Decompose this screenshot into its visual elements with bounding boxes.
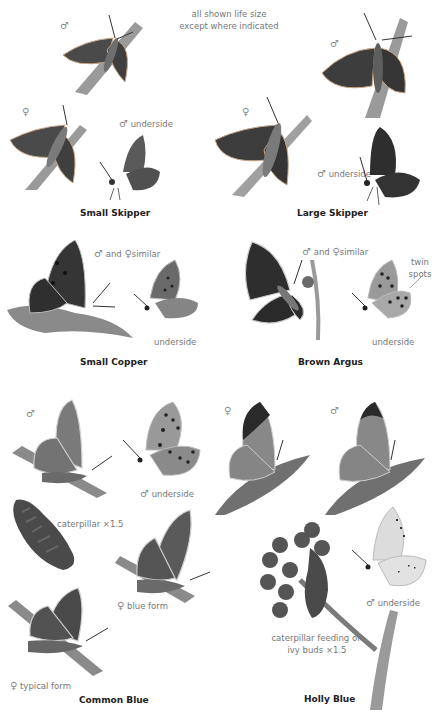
common-blue-caterpillar-label: caterpillar ×1.5 <box>57 518 123 530</box>
caterpillar-line2: ivy buds ×1.5 <box>262 644 372 656</box>
brown-argus-underside-illustration <box>350 258 430 330</box>
holly-blue-female-illustration <box>215 400 315 515</box>
holly-blue-male-underside-label: ♂ underside <box>366 597 420 609</box>
common-blue-typical-form-illustration <box>8 586 113 681</box>
species-title-common-blue: Common Blue <box>79 695 149 705</box>
caterpillar-line1: caterpillar feeding on <box>262 632 372 644</box>
underside-label: underside <box>378 598 420 608</box>
underside-label: underside <box>131 119 173 129</box>
male-symbol: ♂ <box>140 488 149 499</box>
common-blue-blue-form-illustration <box>115 508 215 603</box>
species-title-small-copper: Small Copper <box>80 357 147 367</box>
female-symbol: ♀ <box>10 680 17 691</box>
male-symbol: ♂ <box>317 168 326 179</box>
small-skipper-male-illustration <box>55 10 155 95</box>
common-blue-caterpillar-illustration <box>8 492 78 577</box>
holly-blue-male-illustration <box>325 400 430 515</box>
holly-blue-underside-illustration <box>348 505 428 590</box>
large-skipper-male-illustration <box>320 8 420 118</box>
female-symbol: ♀ <box>332 246 339 257</box>
and-text: and <box>106 249 122 259</box>
small-skipper-underside-illustration <box>98 132 163 202</box>
species-title-holly-blue: Holly Blue <box>304 694 355 704</box>
common-blue-male-underside-label: ♂ underside <box>140 488 194 500</box>
species-title-small-skipper: Small Skipper <box>80 208 150 218</box>
life-size-note-line2: except where indicated <box>174 20 284 32</box>
large-skipper-female-illustration <box>212 95 317 200</box>
species-title-brown-argus: Brown Argus <box>298 357 363 367</box>
male-symbol: ♂ <box>94 248 103 259</box>
common-blue-male-illustration <box>12 398 112 498</box>
male-symbol: ♂ <box>119 118 128 129</box>
common-blue-typical-form-label: ♀ typical form <box>10 680 71 692</box>
small-skipper-female-illustration <box>5 105 95 190</box>
large-skipper-underside-illustration <box>355 125 425 210</box>
blue-form-text: blue form <box>127 601 168 611</box>
brown-argus-underside-label: underside <box>372 336 414 348</box>
and-text: and <box>314 247 330 257</box>
brown-argus-similar-label: ♂ and ♀similar <box>302 246 368 258</box>
life-size-note-line1: all shown life size <box>174 8 284 20</box>
common-blue-blue-form-label: ♀ blue form <box>117 600 168 612</box>
small-copper-underside-label: underside <box>154 336 196 348</box>
small-copper-underside-illustration <box>130 258 200 328</box>
small-skipper-male-underside-label: ♂ underside <box>119 118 173 130</box>
underside-label: underside <box>152 489 194 499</box>
typical-form-text: typical form <box>20 681 71 691</box>
female-symbol: ♀ <box>117 600 124 611</box>
male-symbol: ♂ <box>366 597 375 608</box>
common-blue-underside-illustration <box>118 400 203 485</box>
species-title-large-skipper: Large Skipper <box>297 208 368 218</box>
male-symbol: ♂ <box>302 246 311 257</box>
life-size-note: all shown life size except where indicat… <box>174 8 284 32</box>
holly-blue-caterpillar-label: caterpillar feeding on ivy buds ×1.5 <box>262 632 372 656</box>
similar-text: similar <box>340 247 369 257</box>
